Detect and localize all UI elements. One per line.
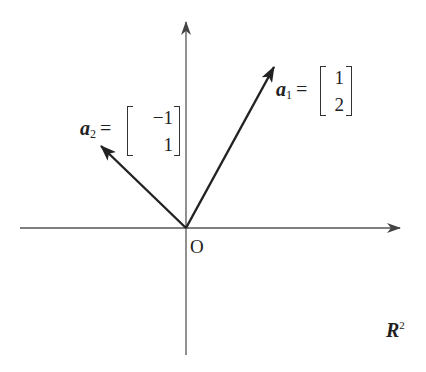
vector-a1-label: a1 = bbox=[276, 78, 307, 103]
vector-a1-left-bracket bbox=[320, 66, 326, 116]
space-label-superscript: 2 bbox=[399, 319, 405, 331]
vector-a2-right-bracket bbox=[174, 106, 180, 156]
vector-a2-label: a2 = bbox=[80, 117, 111, 142]
vector-a2-left-bracket bbox=[127, 106, 133, 156]
vector-a2-subscript: 2 bbox=[90, 127, 96, 141]
vector-a2-equals: = bbox=[100, 117, 111, 139]
vector-a1-component-y: 2 bbox=[335, 95, 345, 114]
diagram-canvas bbox=[0, 0, 426, 372]
origin-label: O bbox=[190, 236, 204, 258]
vector-a1-matrix: 1 2 bbox=[328, 68, 344, 114]
vector-a1-subscript: 1 bbox=[286, 88, 292, 102]
vector-a1-equals: = bbox=[296, 78, 307, 100]
vector-a1-arrow bbox=[186, 67, 274, 228]
vector-a2-component-x: −1 bbox=[153, 108, 173, 127]
vector-a1-name: a bbox=[276, 78, 286, 100]
vector-a2-component-y: 1 bbox=[164, 135, 174, 154]
space-label-base: R bbox=[386, 319, 399, 341]
vector-a2-name: a bbox=[80, 117, 90, 139]
vector-a2-matrix: −1 1 bbox=[135, 108, 173, 154]
space-label: R2 bbox=[386, 319, 405, 342]
vector-a1-component-x: 1 bbox=[335, 68, 345, 87]
vector-a2-arrow bbox=[101, 146, 186, 228]
vector-a1-right-bracket bbox=[346, 66, 352, 116]
